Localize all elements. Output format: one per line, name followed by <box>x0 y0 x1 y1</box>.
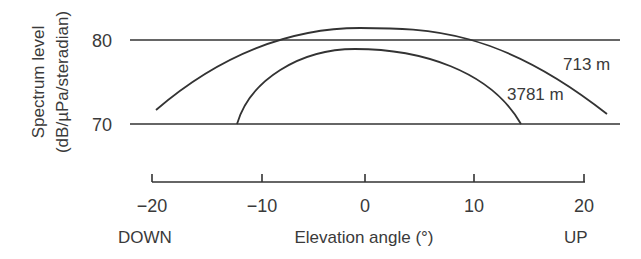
direction-label-up: UP <box>564 228 588 247</box>
x-axis-title: Elevation angle (°) <box>294 228 433 247</box>
x-tick-label: −10 <box>247 196 278 216</box>
y-axis-title-line1: Spectrum level <box>29 26 48 138</box>
x-tick-label: 10 <box>464 196 484 216</box>
y-tick-70: 70 <box>92 115 112 135</box>
x-tick-label: 0 <box>360 196 370 216</box>
x-tick-label: 20 <box>574 196 594 216</box>
curve-label-713m: 713 m <box>563 55 610 74</box>
curve-label-3781m: 3781 m <box>507 85 564 104</box>
y-tick-80: 80 <box>92 31 112 51</box>
chart: Spectrum level (dB/µPa/steradian) 80 70 … <box>0 0 641 259</box>
y-axis-title-line2: (dB/µPa/steradian) <box>53 11 72 153</box>
x-tick-label: −20 <box>137 196 168 216</box>
curve-3781m <box>237 49 521 124</box>
direction-label-down: DOWN <box>118 228 172 247</box>
